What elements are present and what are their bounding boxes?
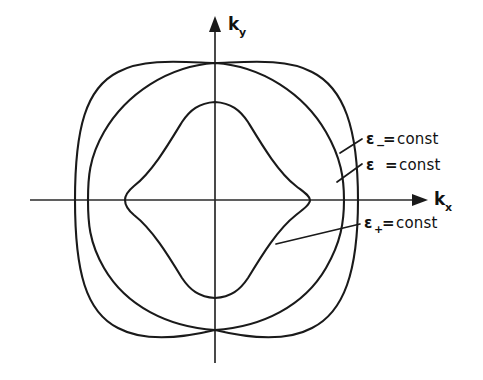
epsilon-equals: =	[385, 156, 398, 174]
epsilon-minus-value: const	[397, 130, 439, 148]
x-axis-label: k x	[434, 189, 452, 214]
curve-label-epsilon-minus: ε − = const	[366, 130, 439, 152]
contour-plot-svg: ε − = const ε = const ε + = const k x k …	[0, 0, 483, 380]
axis-group	[30, 16, 428, 363]
epsilon-value: const	[399, 156, 441, 174]
leader-line-epsilon-plus	[276, 224, 360, 244]
y-axis-label-subscript: y	[239, 26, 246, 39]
epsilon-plus-equals: =	[382, 214, 395, 232]
energy-contour-figure: ε − = const ε = const ε + = const k x k …	[0, 0, 483, 380]
leader-line-epsilon-minus	[340, 139, 362, 153]
epsilon-symbol: ε	[366, 156, 375, 174]
epsilon-plus-symbol: ε	[364, 214, 373, 232]
epsilon-minus-equals: =	[383, 130, 396, 148]
y-axis-label: k y	[228, 14, 246, 39]
y-axis-arrow-icon	[209, 16, 221, 32]
epsilon-minus-symbol: ε	[366, 130, 375, 148]
x-axis-label-subscript: x	[445, 201, 452, 214]
x-axis-arrow-icon	[412, 194, 428, 206]
leader-line-group	[276, 139, 362, 244]
curve-label-epsilon: ε = const	[366, 156, 441, 174]
epsilon-plus-value: const	[396, 214, 438, 232]
curve-label-epsilon-plus: ε + = const	[364, 214, 438, 236]
